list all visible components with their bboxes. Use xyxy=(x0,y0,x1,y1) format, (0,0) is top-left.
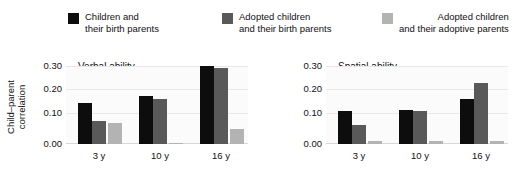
x-tick-label-3y: 3 y xyxy=(79,151,119,161)
y-tick-label-3: 0.00 xyxy=(294,139,322,149)
bar-spatial-3y-adopted-adoptive xyxy=(368,141,382,144)
bar-verbal-16y-children-birth xyxy=(200,66,214,144)
bar-spatial-16y-children-birth xyxy=(460,99,474,144)
bar-verbal-3y-adopted-adoptive xyxy=(108,123,122,144)
x-tick-label-10y: 10 y xyxy=(140,151,180,161)
legend-item-adopted-birth-parents: Adopted children and their birth parents xyxy=(222,11,331,35)
y-tick-label-1: 0.20 xyxy=(34,84,62,94)
y-axis-title: Child–parent correlation xyxy=(5,61,27,153)
bar-spatial-3y-adopted-birth xyxy=(352,125,366,144)
y-tick-label-0: 0.30 xyxy=(294,61,322,71)
bar-verbal-16y-adopted-adoptive xyxy=(230,129,244,144)
bar-verbal-10y-children-birth xyxy=(139,96,153,144)
legend-label-line2: and their birth parents xyxy=(239,23,331,35)
legend-label-adopted-birth-parents: Adopted children and their birth parents xyxy=(239,11,331,35)
legend-swatch-children-birth-parents xyxy=(68,13,79,24)
y-tick-label-2: 0.10 xyxy=(294,108,322,118)
bar-spatial-10y-adopted-adoptive xyxy=(429,141,443,144)
x-tick-label-16y: 16 y xyxy=(461,151,501,161)
bar-spatial-10y-children-birth xyxy=(399,110,413,144)
bar-spatial-16y-adopted-birth xyxy=(474,83,488,144)
bar-spatial-16y-adopted-adoptive xyxy=(490,141,504,144)
legend-swatch-adopted-adoptive-parents xyxy=(382,13,393,24)
bar-spatial-3y-children-birth xyxy=(338,111,352,144)
x-tick-label-3y: 3 y xyxy=(339,151,379,161)
plot-area-spatial xyxy=(326,66,508,144)
y-tick-label-3: 0.00 xyxy=(34,139,62,149)
legend-label-line1: Adopted children xyxy=(438,11,509,22)
bar-verbal-10y-adopted-birth xyxy=(153,99,167,144)
y-tick-label-0: 0.30 xyxy=(34,61,62,71)
y-tick-label-1: 0.20 xyxy=(294,84,322,94)
x-tick-label-16y: 16 y xyxy=(201,151,241,161)
legend-label-line2: their birth parents xyxy=(85,23,159,35)
bar-verbal-16y-adopted-birth xyxy=(214,68,228,144)
legend-item-children-birth-parents: Children and their birth parents xyxy=(68,11,159,35)
y-axis-title-line1: Child–parent xyxy=(5,80,16,134)
y-tick-label-2: 0.10 xyxy=(34,108,62,118)
bar-spatial-10y-adopted-birth xyxy=(413,111,427,144)
chart-legend: Children and their birth parents Adopted… xyxy=(0,0,518,46)
legend-item-adopted-adoptive-parents: Adopted children and their adoptive pare… xyxy=(382,11,509,35)
bar-verbal-10y-adopted-adoptive xyxy=(169,143,183,144)
y-axis-title-line2: correlation xyxy=(16,61,27,153)
chart-panel-verbal-ability: Child–parent correlation Verbal ability … xyxy=(0,52,258,175)
legend-label-children-birth-parents: Children and their birth parents xyxy=(85,11,159,35)
bar-verbal-3y-children-birth xyxy=(78,103,92,144)
plot-area-verbal xyxy=(66,66,248,144)
gridline-030 xyxy=(66,66,248,67)
legend-swatch-adopted-birth-parents xyxy=(222,13,233,24)
gridline-030 xyxy=(326,66,508,67)
legend-label-adopted-adoptive-parents: Adopted children and their adoptive pare… xyxy=(399,11,509,35)
legend-label-line1: Children and xyxy=(85,11,139,22)
bar-verbal-3y-adopted-birth xyxy=(92,121,106,144)
chart-panel-spatial-ability: Spatial ability 0.30 0.20 0.10 0.00 3 y … xyxy=(258,52,518,175)
legend-label-line2: and their adoptive parents xyxy=(399,23,509,35)
legend-label-line1: Adopted children xyxy=(239,11,310,22)
x-tick-label-10y: 10 y xyxy=(400,151,440,161)
